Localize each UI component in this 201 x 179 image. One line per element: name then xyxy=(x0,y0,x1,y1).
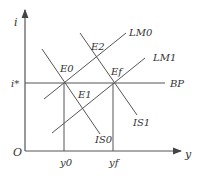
is1-label: IS1 xyxy=(132,117,150,128)
yf-tick-label: yf xyxy=(108,157,121,168)
is0-label: IS0 xyxy=(94,134,113,145)
e1-label: E1 xyxy=(77,89,92,100)
lm0-label: LM0 xyxy=(128,27,153,38)
lm1-label: LM1 xyxy=(152,52,176,63)
x-axis-label: y xyxy=(184,148,192,161)
is-lm-bp-diagram: i y O i* BP LM0 LM1 IS0 IS1 E0 E2 Ef E1 … xyxy=(0,0,201,179)
y-axis-label: i xyxy=(14,16,18,29)
bp-label: BP xyxy=(169,78,184,89)
y0-tick-label: y0 xyxy=(59,157,73,168)
ef-label: Ef xyxy=(110,66,124,77)
e2-label: E2 xyxy=(90,41,105,52)
origin-label: O xyxy=(13,146,22,159)
i-star-label: i* xyxy=(11,78,19,89)
is1-curve xyxy=(80,33,137,115)
e0-label: E0 xyxy=(59,63,74,74)
